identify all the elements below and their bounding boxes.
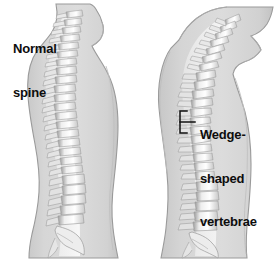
annotation-wedge-shaped-vertebrae: Wedge- shaped vertebrae xyxy=(200,99,257,259)
annotation-wedge-line-1: Wedge- xyxy=(200,128,257,143)
annotation-wedge-line-2: shaped xyxy=(200,172,257,187)
label-normal-spine-line-2: spine xyxy=(13,86,57,101)
label-normal-spine-line-1: Normal xyxy=(13,42,57,57)
annotation-wedge-line-3: vertebrae xyxy=(200,215,257,230)
spine-comparison-illustration: Normal spine xyxy=(0,0,279,271)
panel-normal-spine: Normal spine xyxy=(0,0,140,271)
label-normal-spine: Normal spine xyxy=(13,13,57,129)
